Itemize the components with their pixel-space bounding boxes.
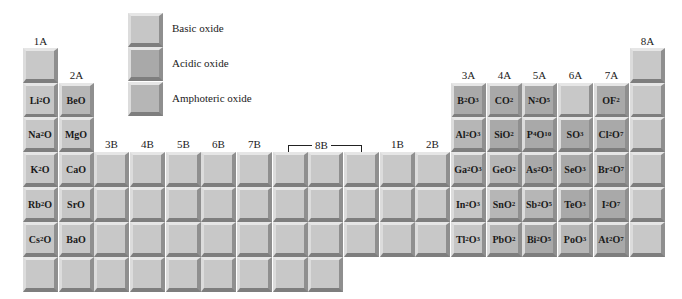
empty-cell bbox=[94, 222, 129, 257]
empty-cell bbox=[166, 222, 201, 257]
empty-cell bbox=[344, 152, 379, 187]
empty-cell bbox=[237, 257, 272, 292]
group-label-2a: 2A bbox=[59, 69, 94, 81]
group-label-6b: 6B bbox=[201, 138, 236, 150]
oxide-cell-cs2o: Cs2O bbox=[23, 222, 58, 257]
legend-label-acidic: Acidic oxide bbox=[172, 57, 229, 69]
empty-cell bbox=[558, 83, 593, 118]
group-label-7b: 7B bbox=[237, 138, 272, 150]
oxide-cell-br2o7: Br2O7 bbox=[594, 152, 629, 187]
group-label-8a: 8A bbox=[630, 35, 665, 47]
empty-cell bbox=[630, 117, 665, 152]
empty-cell bbox=[166, 152, 201, 187]
legend-label-amphoteric: Amphoteric oxide bbox=[172, 92, 252, 104]
oxide-cell-seo3: SeO3 bbox=[558, 152, 593, 187]
group-label-3a: 3A bbox=[451, 69, 486, 81]
oxide-cell-pbo2: PbO2 bbox=[487, 222, 522, 257]
empty-cell bbox=[23, 48, 58, 83]
empty-cell bbox=[344, 222, 379, 257]
empty-cell bbox=[166, 187, 201, 222]
group-label-4a: 4A bbox=[487, 69, 522, 81]
group-label-3b: 3B bbox=[94, 138, 129, 150]
oxide-cell-poo3: PoO3 bbox=[558, 222, 593, 257]
oxide-cell-sno2: SnO2 bbox=[487, 187, 522, 222]
empty-cell bbox=[273, 152, 308, 187]
oxide-cell-li2o: Li2O bbox=[23, 83, 58, 118]
empty-cell bbox=[380, 152, 415, 187]
empty-cell bbox=[344, 187, 379, 222]
group-label-5b: 5B bbox=[166, 138, 201, 150]
empty-cell bbox=[308, 257, 343, 292]
empty-cell bbox=[23, 257, 58, 292]
oxide-cell-of2: OF2 bbox=[594, 83, 629, 118]
empty-cell bbox=[308, 187, 343, 222]
empty-cell bbox=[273, 222, 308, 257]
empty-cell bbox=[201, 152, 236, 187]
empty-cell bbox=[380, 222, 415, 257]
oxide-cell-cl2o7: Cl2O7 bbox=[594, 117, 629, 152]
oxide-cell-teo3: TeO3 bbox=[558, 187, 593, 222]
oxide-cell-sb2o5: Sb2O5 bbox=[522, 187, 557, 222]
empty-cell bbox=[630, 152, 665, 187]
empty-cell bbox=[273, 257, 308, 292]
empty-cell bbox=[415, 222, 450, 257]
empty-cell bbox=[237, 152, 272, 187]
oxide-cell-as2o5: As2O5 bbox=[522, 152, 557, 187]
oxide-cell-at2o7: At2O7 bbox=[594, 222, 629, 257]
empty-cell bbox=[130, 152, 165, 187]
legend-swatch-basic bbox=[128, 13, 163, 47]
group-label-1b: 1B bbox=[380, 138, 415, 150]
oxide-cell-in2o3: In2O3 bbox=[451, 187, 486, 222]
oxide-cell-geo2: GeO2 bbox=[487, 152, 522, 187]
empty-cell bbox=[130, 222, 165, 257]
empty-cell bbox=[94, 257, 129, 292]
oxide-cell-al2o3: Al2O3 bbox=[451, 117, 486, 152]
oxide-cell-n2o5: N2O5 bbox=[522, 83, 557, 118]
empty-cell bbox=[308, 152, 343, 187]
group-label-6a: 6A bbox=[558, 69, 593, 81]
oxide-cell-p4o10: P4O10 bbox=[522, 117, 557, 152]
oxide-cell-sro: SrO bbox=[59, 187, 94, 222]
group-label-2b: 2B bbox=[415, 138, 450, 150]
legend-swatch-acidic bbox=[128, 47, 163, 81]
empty-cell bbox=[308, 222, 343, 257]
oxide-cell-k2o: K2O bbox=[23, 152, 58, 187]
oxide-cell-ga2o3: Ga2O3 bbox=[451, 152, 486, 187]
empty-cell bbox=[630, 187, 665, 222]
oxide-cell-mgo: MgO bbox=[59, 117, 94, 152]
empty-cell bbox=[237, 222, 272, 257]
group-label-7a: 7A bbox=[594, 69, 629, 81]
oxide-cell-bi2o5: Bi2O5 bbox=[522, 222, 557, 257]
empty-cell bbox=[630, 222, 665, 257]
empty-cell bbox=[630, 83, 665, 118]
group-label-4b: 4B bbox=[130, 138, 165, 150]
group-label-5a: 5A bbox=[522, 69, 557, 81]
oxide-cell-rb2o: Rb2O bbox=[23, 187, 58, 222]
oxide-cell-i2o7: I2O7 bbox=[594, 187, 629, 222]
oxide-cell-beo: BeO bbox=[59, 83, 94, 118]
oxide-cell-cao: CaO bbox=[59, 152, 94, 187]
group-label-1a: 1A bbox=[23, 35, 58, 47]
empty-cell bbox=[237, 187, 272, 222]
empty-cell bbox=[130, 187, 165, 222]
oxide-cell-tl2o3: Tl2O3 bbox=[451, 222, 486, 257]
empty-cell bbox=[630, 48, 665, 83]
legend-label-basic: Basic oxide bbox=[172, 22, 224, 34]
empty-cell bbox=[201, 187, 236, 222]
oxide-cell-sio2: SiO2 bbox=[487, 117, 522, 152]
oxide-cell-bao: BaO bbox=[59, 222, 94, 257]
oxide-cell-na2o: Na2O bbox=[23, 117, 58, 152]
empty-cell bbox=[59, 257, 94, 292]
legend-swatch-amphoteric bbox=[128, 82, 163, 116]
oxide-cell-so3: SO3 bbox=[558, 117, 593, 152]
empty-cell bbox=[201, 222, 236, 257]
empty-cell bbox=[130, 257, 165, 292]
empty-cell bbox=[94, 187, 129, 222]
empty-cell bbox=[415, 187, 450, 222]
group-label-8b: 8B bbox=[312, 139, 331, 151]
empty-cell bbox=[380, 187, 415, 222]
empty-cell bbox=[273, 187, 308, 222]
empty-cell bbox=[166, 257, 201, 292]
oxide-cell-b2o3: B2O3 bbox=[451, 83, 486, 118]
oxide-cell-co2: CO2 bbox=[487, 83, 522, 118]
